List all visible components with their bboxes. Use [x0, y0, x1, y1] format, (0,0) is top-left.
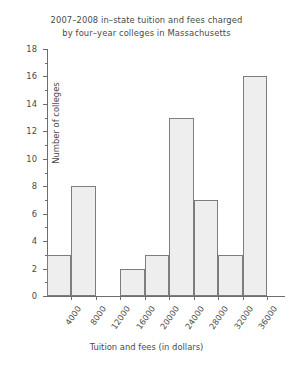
y-tick-minor-9 [45, 173, 48, 174]
y-tick-label-12: 12 [26, 126, 37, 136]
bar-20000–24000 [169, 118, 193, 296]
x-tick-12000 [120, 296, 121, 300]
bar-24000–28000 [194, 200, 218, 296]
plot-area: 024681012141618 400080001200016000200002… [47, 49, 267, 296]
y-tick-label-18: 18 [26, 44, 37, 54]
y-tick-6: 6 [43, 214, 47, 215]
x-axis-line [47, 296, 285, 297]
x-tick-28000 [218, 296, 219, 300]
y-tick-minor-15 [45, 90, 48, 91]
y-tick-14: 14 [43, 104, 47, 105]
y-tick-label-0: 0 [32, 291, 37, 301]
x-tick-label-36000: 36000 [256, 304, 279, 331]
y-tick-minor-17 [45, 63, 48, 64]
x-tick-24000 [194, 296, 195, 300]
histogram-chart: 2007–2008 in–state tuition and fees char… [0, 0, 293, 368]
bar-16000–20000 [145, 255, 169, 296]
x-tick-32000 [243, 296, 244, 300]
x-tick-label-32000: 32000 [232, 304, 255, 331]
bar-28000–32000 [218, 255, 242, 296]
x-tick-36000 [267, 296, 268, 300]
y-tick-label-4: 4 [32, 236, 37, 246]
x-tick-20000 [169, 296, 170, 300]
chart-title-line-1: 2007–2008 in–state tuition and fees char… [0, 14, 293, 27]
x-tick-16000 [145, 296, 146, 300]
y-tick-label-14: 14 [26, 99, 37, 109]
y-tick-16: 16 [43, 76, 47, 77]
x-tick-8000 [96, 296, 97, 300]
x-tick-label-16000: 16000 [134, 304, 157, 331]
y-tick-minor-13 [45, 118, 48, 119]
y-tick-8: 8 [43, 186, 47, 187]
y-tick-18: 18 [43, 49, 47, 50]
y-tick-4: 4 [43, 241, 47, 242]
y-tick-label-2: 2 [32, 264, 37, 274]
x-tick-label-28000: 28000 [207, 304, 230, 331]
y-tick-label-16: 16 [26, 71, 37, 81]
x-tick-label-4000: 4000 [63, 304, 83, 327]
y-tick-12: 12 [43, 131, 47, 132]
y-tick-10: 10 [43, 159, 47, 160]
y-tick-label-10: 10 [26, 154, 37, 164]
chart-title: 2007–2008 in–state tuition and fees char… [0, 14, 293, 40]
x-axis-title: Tuition and fees (in dollars) [0, 342, 293, 352]
y-tick-minor-5 [45, 227, 48, 228]
chart-title-line-2: by four–year colleges in Massachusetts [0, 27, 293, 40]
y-tick-label-8: 8 [32, 181, 37, 191]
x-tick-label-12000: 12000 [109, 304, 132, 331]
bar-12000–16000 [120, 269, 144, 296]
x-tick-label-8000: 8000 [88, 304, 108, 327]
bar-4000–8000 [71, 186, 95, 296]
y-tick-0: 0 [43, 296, 47, 297]
y-tick-minor-7 [45, 200, 48, 201]
y-tick-label-6: 6 [32, 209, 37, 219]
y-tick-minor-11 [45, 145, 48, 146]
x-tick-label-24000: 24000 [183, 304, 206, 331]
x-tick-4000 [71, 296, 72, 300]
bar-0–4000 [47, 255, 71, 296]
x-tick-label-20000: 20000 [158, 304, 181, 331]
bar-32000–36000 [243, 76, 267, 296]
y-axis-title: Number of colleges [51, 63, 61, 183]
